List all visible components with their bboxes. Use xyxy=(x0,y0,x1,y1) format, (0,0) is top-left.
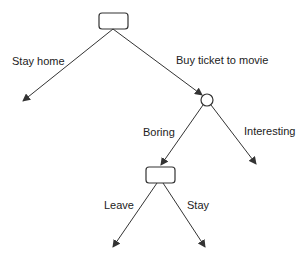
edge-stay xyxy=(163,183,205,247)
chance-node-movie xyxy=(201,94,213,106)
label-stay: Stay xyxy=(187,200,209,211)
root-decision-node xyxy=(99,13,128,29)
label-boring: Boring xyxy=(143,127,175,138)
label-stay-home: Stay home xyxy=(12,56,65,67)
edge-leave xyxy=(113,183,157,247)
boring-decision-node xyxy=(146,167,175,183)
label-interesting: Interesting xyxy=(244,126,295,137)
label-buy-ticket: Buy ticket to movie xyxy=(176,55,268,66)
label-leave: Leave xyxy=(104,200,134,211)
